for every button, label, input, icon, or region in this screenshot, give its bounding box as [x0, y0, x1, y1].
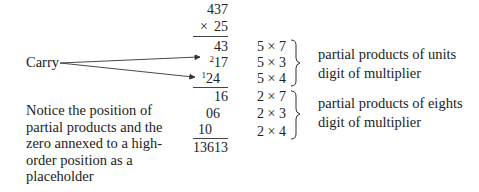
- note-line: zero annexed to a high-: [26, 135, 163, 152]
- note-line: order position as a: [26, 152, 163, 169]
- note-paragraph: Notice the position of partial products …: [26, 102, 163, 185]
- note-line: Notice the position of: [26, 102, 163, 119]
- eights-label-line1: partial products of eights: [318, 95, 463, 112]
- note-line: placeholder: [26, 168, 163, 185]
- note-line: partial products and the: [26, 119, 163, 136]
- eights-label-line2: digit of multiplier: [318, 114, 421, 131]
